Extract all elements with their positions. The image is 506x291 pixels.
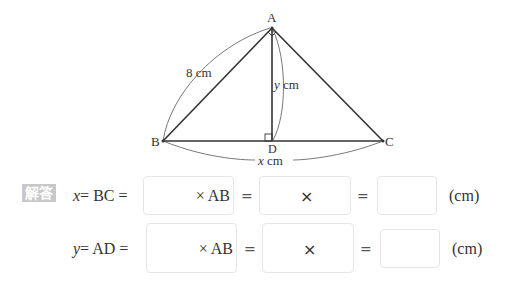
- row-x-eq2: =: [357, 188, 369, 204]
- answer-box-x-product[interactable]: ×: [259, 176, 351, 215]
- arc-bc-left: [163, 141, 255, 160]
- side-ab: [163, 28, 272, 141]
- box-x-times: ×: [300, 189, 313, 205]
- length-label-bc: x cm: [258, 154, 283, 167]
- row-x-lhs: x= BC =: [73, 188, 128, 204]
- row-y-eq1: =: [244, 241, 256, 257]
- length-label-ab: 8 cm: [186, 66, 212, 79]
- vertex-label-b: B: [151, 135, 160, 148]
- answer-box-x-ratio[interactable]: × AB: [143, 176, 234, 215]
- triangle-diagram: [0, 0, 506, 180]
- vertex-label-c: C: [385, 135, 394, 148]
- arc-bc-right: [293, 141, 383, 160]
- right-angle-mark-d: [265, 134, 272, 141]
- row-y-eq2: =: [360, 241, 372, 257]
- row-x-eq1: =: [241, 188, 253, 204]
- box-y-times: ×: [303, 242, 316, 258]
- vertex-label-a: A: [267, 11, 276, 24]
- triangle-figure: A B C D 8 cm y cm x cm: [0, 0, 506, 180]
- answer-box-y-result[interactable]: [380, 229, 440, 268]
- answer-box-x-result[interactable]: [377, 176, 437, 215]
- row-x-unit: (cm): [449, 188, 479, 204]
- row-y-unit: (cm): [452, 241, 482, 257]
- length-label-ad: y cm: [274, 78, 299, 91]
- answer-row-y: y= AD = × AB = × = (cm): [0, 223, 506, 263]
- row-y-lhs: y= AD =: [73, 241, 128, 257]
- answer-row-x: x= BC = × AB = × = (cm): [0, 176, 506, 216]
- answer-box-y-ratio[interactable]: × AB: [146, 223, 237, 273]
- answer-box-y-product[interactable]: ×: [262, 223, 354, 273]
- box-y-ratio-suffix: × AB: [199, 241, 233, 257]
- box-x-ratio-suffix: × AB: [196, 188, 230, 204]
